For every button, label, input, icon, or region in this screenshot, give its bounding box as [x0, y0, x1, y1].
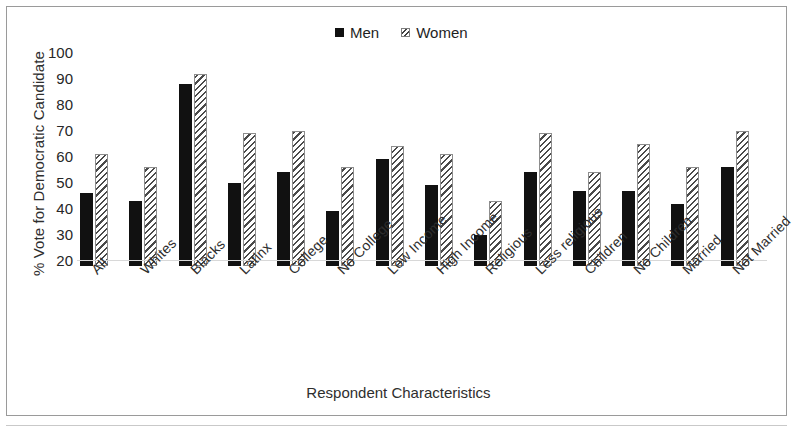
x-axis-baseline [77, 260, 767, 261]
bar-men [277, 172, 290, 266]
bar-men [721, 167, 734, 266]
y-axis-tick-50: 50 [33, 174, 73, 191]
chart-legend: Men Women [335, 24, 468, 41]
y-axis-tick-70: 70 [33, 122, 73, 139]
figure-bottom-rule [6, 425, 787, 426]
legend-label-women: Women [416, 24, 467, 41]
bar-chart-figure: % Vote for Democratic Candidate 10090807… [0, 0, 797, 436]
bar-men [228, 183, 241, 266]
bar-women [95, 154, 108, 266]
y-axis-tick-90: 90 [33, 70, 73, 87]
y-axis-tick-30: 30 [33, 226, 73, 243]
y-axis-tick-80: 80 [33, 96, 73, 113]
y-axis-tick-60: 60 [33, 148, 73, 165]
bar-men [129, 201, 142, 266]
y-axis-tick-labels: 1009080706050403020 [29, 0, 73, 436]
legend-item-men: Men [335, 24, 379, 41]
bar-men [376, 159, 389, 266]
x-axis-title: Respondent Characteristics [0, 384, 797, 401]
filled-square-marker-icon [335, 28, 344, 37]
bar-women [736, 131, 749, 266]
bar-group [225, 52, 274, 266]
bar-group [77, 52, 126, 266]
bar-group [176, 52, 225, 266]
bar-women [194, 74, 207, 266]
bar-men [622, 191, 635, 266]
legend-label-men: Men [350, 24, 379, 41]
bar-women [292, 131, 305, 266]
bar-men [80, 193, 93, 266]
bar-women [539, 133, 552, 266]
bar-men [179, 84, 192, 266]
bar-men [524, 172, 537, 266]
bar-group [126, 52, 175, 266]
hatched-square-marker-icon [401, 28, 410, 37]
y-axis-tick-100: 100 [33, 44, 73, 61]
y-axis-tick-40: 40 [33, 200, 73, 217]
y-axis-tick-20: 20 [33, 252, 73, 269]
bar-men [326, 211, 339, 266]
legend-item-women: Women [401, 24, 467, 41]
bar-women [243, 133, 256, 266]
